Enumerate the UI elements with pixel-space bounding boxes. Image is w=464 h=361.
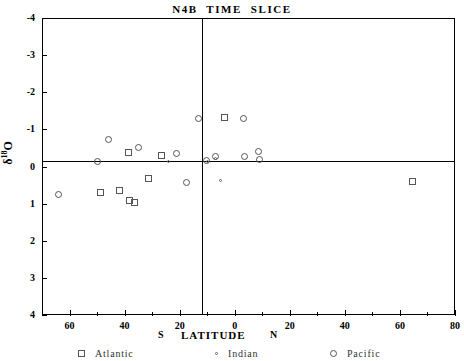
y-tick-mark (42, 55, 47, 56)
y-tick-mark (42, 92, 47, 93)
x-tick-mark (70, 310, 71, 316)
x-tick-mark-minor (42, 312, 43, 316)
legend-label-pacific: Pacific (347, 348, 380, 359)
x-axis-label-north: N (270, 329, 277, 340)
x-tick-mark-minor (372, 312, 373, 316)
zero-vertical-axis-line (202, 18, 203, 315)
y-tick-mark (42, 278, 47, 279)
x-tick-mark-minor (97, 312, 98, 316)
data-point-pacific (212, 153, 219, 160)
legend-label-atlantic: Atlantic (95, 348, 134, 359)
data-point-pacific (94, 158, 101, 165)
data-point-pacific (256, 156, 263, 163)
data-point-atlantic (221, 114, 228, 121)
y-tick-label: 0 (5, 162, 35, 172)
data-point-atlantic (145, 175, 152, 182)
x-tick-mark (235, 310, 236, 316)
x-tick-mark-minor (207, 312, 208, 316)
y-tick-label: 1 (5, 199, 35, 209)
legend-item-atlantic[interactable]: Atlantic (78, 347, 134, 360)
data-point-pacific (195, 115, 202, 122)
data-point-indian (219, 179, 222, 182)
data-point-pacific (203, 157, 210, 164)
data-point-pacific (105, 136, 112, 143)
y-tick-label: -1 (5, 124, 35, 134)
y-tick-mark (42, 129, 47, 130)
y-tick-mark (42, 241, 47, 242)
data-point-atlantic (131, 199, 138, 206)
y-tick-label: -2 (5, 87, 35, 97)
x-tick-mark (290, 310, 291, 316)
y-axis-label-superscript: 18 (0, 151, 9, 159)
data-point-pacific (183, 179, 190, 186)
legend-marker-dot-icon (215, 352, 218, 355)
data-point-pacific (135, 144, 142, 151)
x-tick-mark (125, 310, 126, 316)
data-point-pacific (55, 191, 62, 198)
data-point-pacific (255, 148, 262, 155)
y-tick-label: -4 (5, 13, 35, 23)
x-tick-mark-minor (317, 312, 318, 316)
x-tick-mark (455, 310, 456, 316)
data-point-pacific (241, 153, 248, 160)
x-tick-mark-minor (427, 312, 428, 316)
y-tick-label: -3 (5, 50, 35, 60)
x-axis-label-group: S LATITUDE N (0, 329, 464, 343)
x-axis-label: LATITUDE (181, 329, 246, 341)
legend-label-indian: Indian (228, 348, 258, 359)
legend-item-pacific[interactable]: Pacific (330, 347, 380, 360)
plot-area (42, 18, 455, 315)
data-point-pacific (173, 150, 180, 157)
y-tick-label: 3 (5, 273, 35, 283)
chart-title: N4B TIME SLICE (0, 3, 464, 15)
zero-horizontal-axis-line (42, 161, 455, 162)
data-point-atlantic (97, 189, 104, 196)
legend-marker-circle-icon (330, 350, 337, 357)
x-axis-label-south: S (158, 329, 164, 340)
legend-item-indian[interactable]: Indian (215, 347, 258, 360)
y-axis-label-oxygen: O (1, 141, 15, 150)
data-point-atlantic (409, 178, 416, 185)
chart-legend: AtlanticIndianPacific (0, 347, 464, 361)
x-tick-mark (345, 310, 346, 316)
y-tick-label: 4 (5, 310, 35, 320)
data-point-pacific (240, 115, 247, 122)
chart-figure: N4B TIME SLICE δ18O -4-3-2-101234 604020… (0, 0, 464, 361)
data-point-atlantic (116, 187, 123, 194)
y-tick-label: 2 (5, 236, 35, 246)
x-tick-mark-minor (152, 312, 153, 316)
data-point-atlantic (125, 149, 132, 156)
x-tick-mark (180, 310, 181, 316)
y-tick-mark (42, 167, 47, 168)
data-point-indian (167, 160, 170, 163)
y-tick-mark (42, 204, 47, 205)
y-tick-mark (42, 18, 47, 19)
x-tick-mark (400, 310, 401, 316)
data-point-atlantic (158, 152, 165, 159)
legend-marker-square-icon (78, 350, 85, 357)
x-tick-mark-minor (262, 312, 263, 316)
